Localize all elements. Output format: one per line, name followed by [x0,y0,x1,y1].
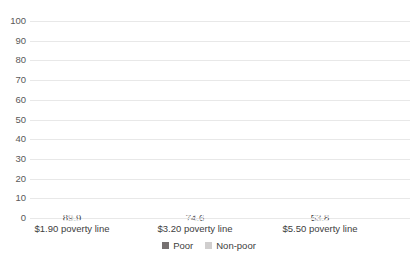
legend-swatch-icon [205,242,212,249]
y-tick-label: 50 [15,115,26,125]
bar-value-label: 10.1 [63,213,82,223]
legend-label: Non-poor [216,241,256,251]
bar-value-label: 25.4 [186,213,205,223]
x-tick-label: $5.50 poverty line [283,223,358,234]
bars-layer: 89.9 10.1 74.6 25.4 53.8 [30,21,410,218]
gridline [30,218,410,219]
y-tick-label: 90 [15,36,26,46]
y-tick-label: 0 [21,213,26,223]
y-tick-label: 20 [15,174,26,184]
legend-item-non-poor[interactable]: Non-poor [205,241,256,251]
y-tick-label: 10 [15,194,26,204]
legend-item-poor[interactable]: Poor [162,241,193,251]
plot-area: 89.9 10.1 74.6 25.4 53.8 [30,21,410,218]
x-tick-label: $1.90 poverty line [35,223,110,234]
y-tick-label: 30 [15,154,26,164]
y-tick-label: 80 [15,56,26,66]
x-axis: $1.90 poverty line $3.20 poverty line $5… [30,223,410,239]
legend-label: Poor [173,241,193,251]
y-tick-label: 60 [15,95,26,105]
y-tick-label: 70 [15,75,26,85]
y-axis: 100 90 80 70 60 50 40 30 20 10 0 [0,21,26,218]
legend-swatch-icon [162,242,169,249]
x-tick-label: $3.20 poverty line [158,223,233,234]
stacked-bar-chart: 100 90 80 70 60 50 40 30 20 10 0 [0,0,418,265]
y-tick-label: 40 [15,134,26,144]
y-tick-label: 100 [10,16,26,26]
bar-value-label: 46.2 [311,213,330,223]
chart-legend: Poor Non-poor [0,241,418,251]
